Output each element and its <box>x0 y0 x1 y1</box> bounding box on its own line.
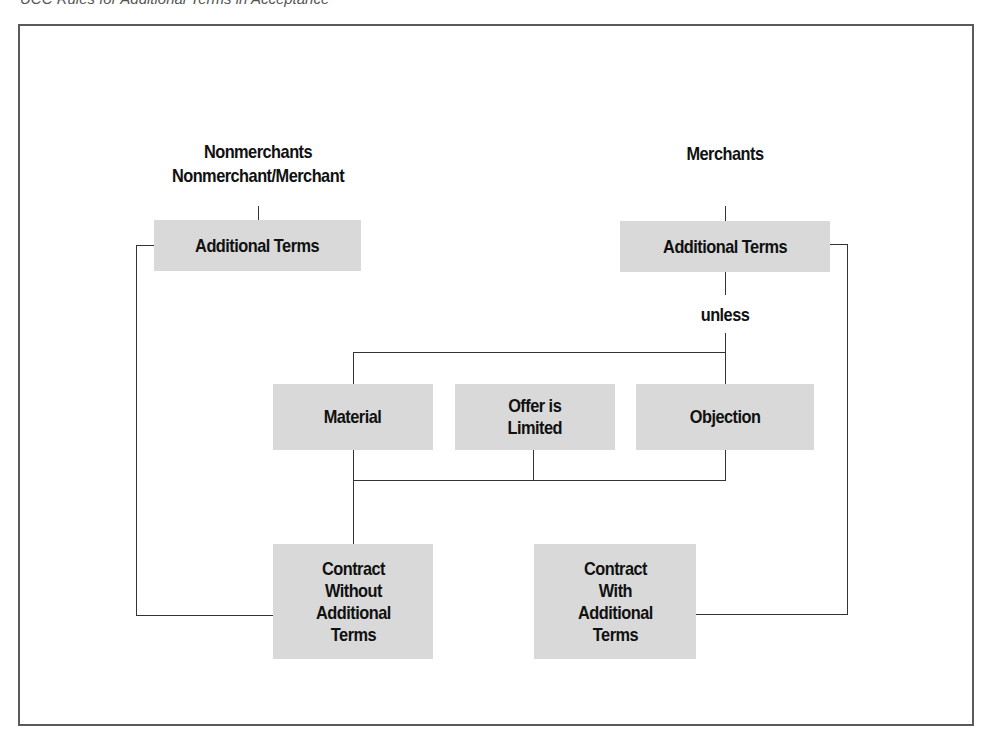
connector-line <box>353 352 354 384</box>
box-objection: Objection <box>636 384 814 450</box>
box-label: Additional Terms <box>195 235 319 257</box>
diagram-frame <box>18 24 974 726</box>
connector-line <box>696 614 848 615</box>
connector-line <box>725 206 726 221</box>
unless-label: unless <box>682 303 768 326</box>
connector-line <box>830 244 847 245</box>
box-label: Material <box>324 406 382 428</box>
connector-line <box>353 352 725 353</box>
box-contract-without-additional-terms: Contract Without Additional Terms <box>273 544 433 659</box>
connector-line <box>847 244 848 614</box>
connector-line <box>136 245 154 246</box>
box-label: Contract Without Additional Terms <box>316 558 391 646</box>
connector-line <box>258 206 259 220</box>
figure-caption: UCC Rules for Additional Terms in Accept… <box>20 0 329 7</box>
header-nonmerchant-merchant: Nonmerchant/Merchant <box>146 164 370 187</box>
box-offer-limited: Offer is Limited <box>455 384 615 450</box>
box-label: Contract With Additional Terms <box>578 558 653 646</box>
connector-line <box>533 450 534 480</box>
box-label: Objection <box>690 406 761 428</box>
connector-line <box>725 272 726 295</box>
box-contract-with-additional-terms: Contract With Additional Terms <box>534 544 696 659</box>
box-label: Offer is Limited <box>508 395 562 439</box>
header-nonmerchants: Nonmerchants <box>163 140 352 163</box>
box-left-additional-terms: Additional Terms <box>154 220 361 271</box>
header-merchants: Merchants <box>639 142 811 165</box>
connector-line <box>136 245 137 615</box>
connector-line <box>136 615 273 616</box>
connector-line <box>725 333 726 384</box>
connector-line <box>353 450 354 544</box>
box-right-additional-terms: Additional Terms <box>620 221 830 272</box>
connector-line <box>353 480 726 481</box>
box-label: Additional Terms <box>663 236 787 258</box>
box-material: Material <box>273 384 433 450</box>
connector-line <box>725 450 726 480</box>
